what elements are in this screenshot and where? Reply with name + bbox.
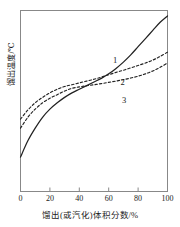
x-tick-label: 60 — [105, 194, 113, 204]
x-tick-label: 80 — [134, 194, 142, 204]
x-tick-label: 100 — [162, 194, 174, 204]
y-axis-label: 馏出温度/℃ — [6, 14, 18, 114]
curve-label-2: 2 — [121, 78, 125, 87]
curve-label-1: 1 — [113, 56, 117, 65]
curve-2 — [21, 52, 168, 119]
plot-area — [0, 0, 180, 227]
curve-3 — [21, 63, 168, 128]
x-axis-label: 馏出(或汽化)体积分数/% — [0, 208, 180, 220]
x-tick-label: 20 — [46, 194, 54, 204]
curve-label-3: 3 — [122, 96, 126, 105]
distillation-curve-figure: 馏出温度/℃ 馏出(或汽化)体积分数/% 020406080100 123 — [0, 0, 180, 227]
curve-1 — [21, 16, 168, 157]
x-tick-label: 0 — [19, 194, 23, 204]
x-tick-label: 40 — [75, 194, 83, 204]
